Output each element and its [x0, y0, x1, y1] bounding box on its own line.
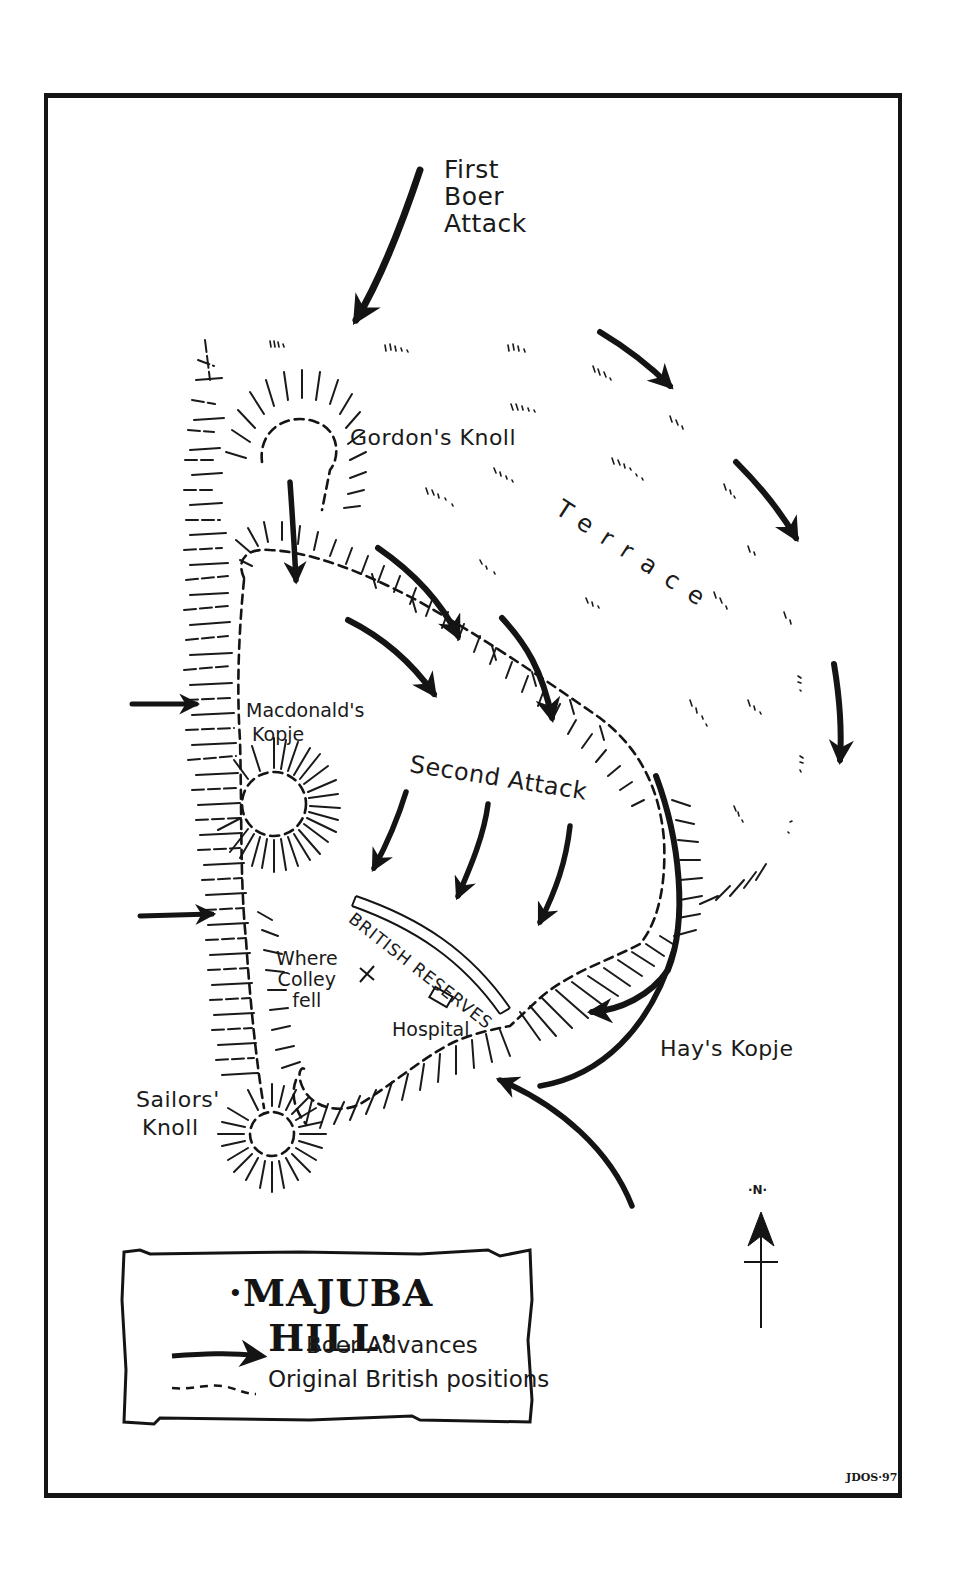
- label-hays-kopje: Hay's Kopje: [660, 1038, 793, 1060]
- legend-dash-icon: [172, 1386, 256, 1394]
- label-line: Kopje: [246, 722, 364, 746]
- label-line: Boer: [444, 183, 527, 210]
- arrow-terrace-2: [736, 462, 796, 538]
- arrow-second-2: [458, 804, 488, 896]
- label-line: Knoll: [136, 1114, 220, 1142]
- label-hospital: Hospital: [392, 1020, 470, 1039]
- arrow-gordon-gap: [290, 482, 296, 580]
- colley-fell-cross-icon: [360, 966, 374, 982]
- label-line: Colley: [276, 969, 338, 990]
- label-gordons-knoll: Gordon's Knoll: [350, 427, 516, 449]
- label-line: Attack: [444, 210, 527, 237]
- arrow-first-attack: [356, 170, 420, 320]
- arrow-terrace-3: [834, 664, 841, 760]
- legend-british-positions: Original British positions: [268, 1368, 549, 1391]
- label-line: Where: [276, 948, 338, 969]
- legend-boer-advances: Boer Advances: [306, 1334, 478, 1357]
- artist-signature: JDOS·97·: [846, 1472, 901, 1483]
- label-line: fell: [276, 990, 338, 1011]
- label-sailors-knoll: Sailors' Knoll: [136, 1086, 220, 1142]
- arrow-west-2: [140, 914, 212, 916]
- label-line: Macdonald's: [246, 698, 364, 722]
- compass-north-label: ·N·: [748, 1184, 767, 1196]
- arrow-north-1: [378, 548, 458, 636]
- label-line: Sailors': [136, 1086, 220, 1114]
- label-macdonalds-kopje: Macdonald's Kopje: [246, 698, 364, 746]
- north-arrow-icon: [744, 1212, 778, 1328]
- arrow-hays-3: [500, 1080, 632, 1206]
- label-first-boer-attack: First Boer Attack: [444, 156, 527, 237]
- label-where-colley-fell: Where Colley fell: [276, 948, 338, 1011]
- label-line: First: [444, 156, 527, 183]
- arrow-second-1: [374, 792, 406, 868]
- arrow-second-3: [540, 826, 570, 922]
- arrow-plateau: [348, 620, 434, 694]
- terrace-hachures: [270, 341, 803, 833]
